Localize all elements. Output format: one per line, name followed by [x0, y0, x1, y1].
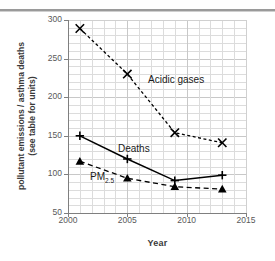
- y-axis-title: pollutant emissions / asthma deaths (see…: [16, 11, 38, 221]
- marker-triangle: [218, 185, 227, 193]
- y-axis-title-line2: (see table for units): [27, 11, 38, 221]
- pm-base-text: PM: [90, 171, 105, 182]
- series-acidic-gases: [76, 24, 227, 147]
- series-label-pm25: PM2.5: [90, 171, 114, 184]
- series-label-acidic-gases: Acidic gases: [148, 74, 204, 85]
- data-series-layer: [0, 0, 275, 261]
- series-line: [80, 28, 222, 142]
- y-axis-title-line1: pollutant emissions / asthma deaths: [16, 42, 26, 190]
- chart-figure: 300250200150100502000200520102015 Acidic…: [0, 0, 275, 261]
- x-axis-title: Year: [68, 238, 247, 248]
- series-label-deaths: Deaths: [118, 143, 150, 154]
- pm-subscript-text: 2.5: [105, 177, 114, 184]
- marker-triangle: [76, 157, 85, 165]
